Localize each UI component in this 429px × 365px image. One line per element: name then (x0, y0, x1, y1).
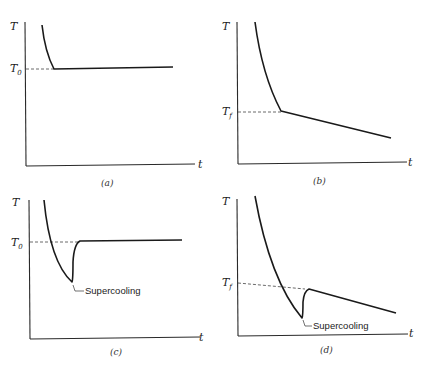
x-axis-label: t (199, 331, 204, 344)
x-axis (238, 162, 407, 164)
cooling-curve (255, 22, 391, 138)
panel-c: T t T0 Supercooling (c) (11, 196, 204, 357)
panel-b: T t Tf (b) (222, 20, 413, 186)
x-axis-label: t (409, 327, 414, 340)
cooling-curve (255, 196, 396, 318)
panel-a: T t T0 (a) (10, 20, 203, 188)
panel-caption: (b) (313, 176, 326, 186)
supercooling-annotation: Supercooling (313, 320, 368, 331)
y-axis (25, 22, 26, 166)
annotation-leader (303, 320, 312, 326)
cooling-curve (44, 200, 182, 282)
ref-temp-dashed-line (238, 283, 305, 289)
ref-temp-label: Tf (222, 105, 233, 120)
y-axis (237, 199, 238, 336)
y-axis-label: T (10, 20, 19, 33)
panel-caption: (d) (320, 345, 333, 355)
cooling-curve (42, 25, 173, 69)
x-axis (238, 334, 408, 336)
ref-temp-label: T0 (10, 62, 22, 77)
ref-temp-label: T0 (11, 236, 23, 251)
cooling-curves-figure: T t T0 (a) T t Tf (b) T t T0 Supercoolin… (0, 0, 429, 365)
x-axis (30, 337, 200, 339)
x-axis-label: t (408, 156, 413, 169)
y-axis (29, 200, 30, 339)
y-axis (237, 22, 238, 164)
y-axis-label: T (222, 195, 231, 208)
y-axis-label: T (12, 196, 21, 209)
x-axis (26, 164, 195, 166)
y-axis-label: T (222, 20, 231, 33)
ref-temp-label: Tf (222, 276, 233, 291)
annotation-leader (73, 285, 84, 291)
x-axis-label: t (198, 158, 203, 171)
panel-d: T t Tf Supercooling (d) (222, 195, 414, 355)
panel-caption: (c) (110, 347, 123, 357)
supercooling-annotation: Supercooling (85, 285, 140, 296)
panel-caption: (a) (101, 178, 114, 188)
